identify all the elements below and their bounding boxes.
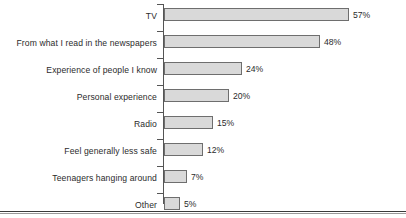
- axis-tick: [157, 31, 163, 32]
- bar-row: Feel generally less safe 12%: [0, 139, 406, 166]
- bar[interactable]: [164, 143, 203, 156]
- bar-chart: TV 57% From what I read in the newspaper…: [0, 0, 406, 218]
- category-label: From what I read in the newspapers: [17, 37, 158, 50]
- category-label: Feel generally less safe: [64, 145, 157, 158]
- bar-value-label: 15%: [217, 117, 234, 130]
- axis-tick: [157, 4, 163, 5]
- bar[interactable]: [164, 62, 242, 75]
- bar-value-label: 20%: [233, 90, 250, 103]
- bar-row: From what I read in the newspapers 48%: [0, 31, 406, 58]
- category-label: Experience of people I know: [46, 64, 157, 77]
- bar-value-label: 48%: [324, 36, 341, 49]
- bar[interactable]: [164, 8, 349, 21]
- bar[interactable]: [164, 35, 320, 48]
- bar-row: TV 57%: [0, 4, 406, 31]
- category-label: Radio: [134, 118, 157, 131]
- category-label: Teenagers hanging around: [52, 172, 157, 185]
- bar-value-label: 7%: [191, 171, 203, 184]
- axis-tick: [157, 193, 163, 194]
- bar-row: Radio 15%: [0, 112, 406, 139]
- bar-row: Experience of people I know 24%: [0, 58, 406, 85]
- bottom-divider: [0, 211, 406, 212]
- category-label: Personal experience: [77, 91, 157, 104]
- bar[interactable]: [164, 170, 187, 183]
- axis-tick: [157, 58, 163, 59]
- axis-tick: [157, 112, 163, 113]
- bar-value-label: 57%: [353, 9, 370, 22]
- bottom-divider-shadow: [0, 213, 406, 214]
- bar-row: Other 5%: [0, 193, 406, 218]
- axis-tick: [157, 139, 163, 140]
- axis-tick: [157, 166, 163, 167]
- plot-area: TV 57% From what I read in the newspaper…: [0, 0, 406, 206]
- axis-tick: [157, 85, 163, 86]
- category-label: TV: [146, 10, 157, 23]
- bar-value-label: 12%: [207, 144, 224, 157]
- bar-value-label: 5%: [184, 198, 196, 211]
- bar-row: Teenagers hanging around 7%: [0, 166, 406, 193]
- bar-value-label: 24%: [246, 63, 263, 76]
- bar[interactable]: [164, 89, 229, 102]
- bar[interactable]: [164, 116, 213, 129]
- bar[interactable]: [164, 197, 180, 210]
- bar-row: Personal experience 20%: [0, 85, 406, 112]
